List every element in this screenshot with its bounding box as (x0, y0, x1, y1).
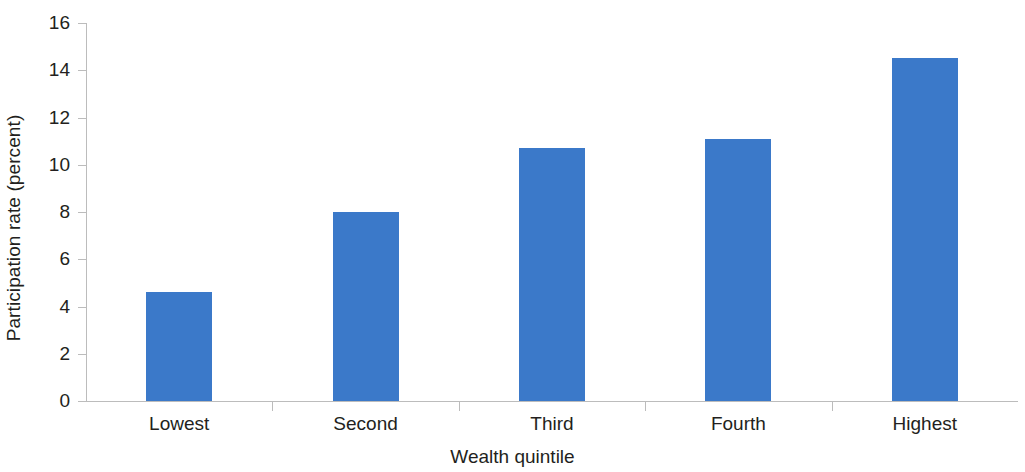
y-axis-tick-label: 10 (8, 155, 70, 174)
y-axis-tick-label: 6 (8, 249, 70, 268)
bar-second (333, 212, 399, 401)
x-axis-title: Wealth quintile (0, 447, 1025, 468)
x-axis-label-second: Second (272, 414, 458, 435)
x-axis-baseline (86, 401, 1018, 402)
y-axis-tick-label: 0 (8, 391, 70, 410)
x-axis-label-third: Third (459, 414, 645, 435)
x-axis-tick (645, 402, 646, 411)
y-axis-tick-label: 12 (8, 108, 70, 127)
y-axis-tick (78, 23, 86, 24)
y-axis-tick (78, 118, 86, 119)
y-axis-tick-label: 14 (8, 60, 70, 79)
y-axis-tick (78, 165, 86, 166)
y-axis-tick (78, 70, 86, 71)
x-axis-tick (832, 402, 833, 411)
x-axis-label-fourth: Fourth (645, 414, 831, 435)
bar-lowest (146, 292, 212, 401)
y-axis-line (86, 23, 87, 402)
y-axis-tick-label: 16 (8, 13, 70, 32)
x-axis-label-highest: Highest (832, 414, 1018, 435)
y-axis-tick-label: 4 (8, 297, 70, 316)
bar-fourth (705, 139, 771, 401)
y-axis-tick-label: 2 (8, 344, 70, 363)
y-axis-tick (78, 259, 86, 260)
y-axis-tick (78, 401, 86, 402)
y-axis-tick (78, 354, 86, 355)
x-axis-tick (459, 402, 460, 411)
x-axis-tick (272, 402, 273, 411)
y-axis-tick (78, 307, 86, 308)
y-axis-tick (78, 212, 86, 213)
x-axis-label-lowest: Lowest (86, 414, 272, 435)
y-axis-tick-label: 8 (8, 202, 70, 221)
bar-highest (892, 58, 958, 401)
bar-third (519, 148, 585, 401)
bar-chart: Participation rate (percent) 02468101214… (0, 0, 1025, 472)
y-axis-title: Participation rate (percent) (0, 28, 28, 428)
